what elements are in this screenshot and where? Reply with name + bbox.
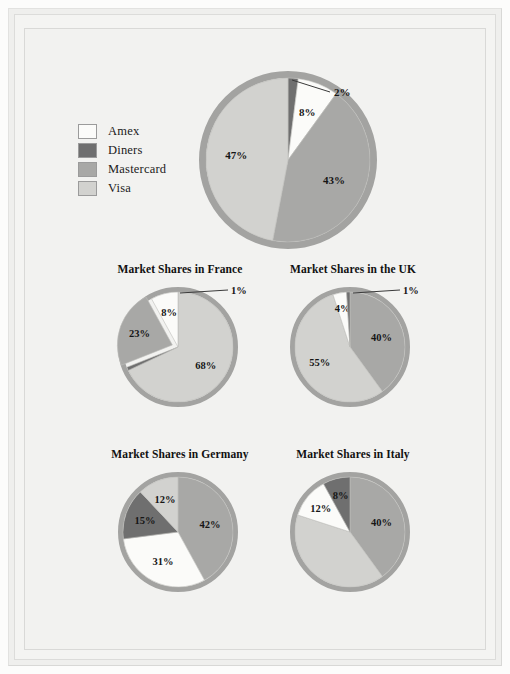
pie-chart-germany: 42%31%15%12% xyxy=(121,475,236,590)
slice-label: 8% xyxy=(333,490,349,501)
pie-chart-france: 68%23%8%1% xyxy=(117,285,246,405)
slice-label: 15% xyxy=(135,515,156,526)
slice-label: 55% xyxy=(309,357,330,368)
slice-label: 40% xyxy=(371,517,392,528)
callout-label: 1% xyxy=(403,285,419,296)
slice-label: 43% xyxy=(323,174,345,186)
slice-label: 47% xyxy=(225,149,247,161)
slice-label: 8% xyxy=(161,307,177,318)
callout-label: 2% xyxy=(334,86,351,98)
pie-chart-overall: 8%43%47%2% xyxy=(203,75,374,246)
slice-label: 31% xyxy=(153,556,174,567)
slice-label: 8% xyxy=(299,106,316,118)
slice-label: 40% xyxy=(371,332,392,343)
slice-label: 23% xyxy=(129,328,150,339)
slice-label: 68% xyxy=(195,360,216,371)
document-page: Amex Diners Mastercard Visa Market Share… xyxy=(0,0,510,674)
callout-label: 1% xyxy=(231,285,247,296)
slice-label: 12% xyxy=(155,494,176,505)
slice-label: 42% xyxy=(199,519,220,530)
pie-chart-italy: 40%12%8% xyxy=(293,475,408,590)
pie-charts-canvas: 8%43%47%2%68%23%8%1%40%55%4%1%42%31%15%1… xyxy=(0,0,510,674)
pie-chart-uk: 40%55%4%1% xyxy=(293,285,419,405)
slice-label: 12% xyxy=(310,503,331,514)
